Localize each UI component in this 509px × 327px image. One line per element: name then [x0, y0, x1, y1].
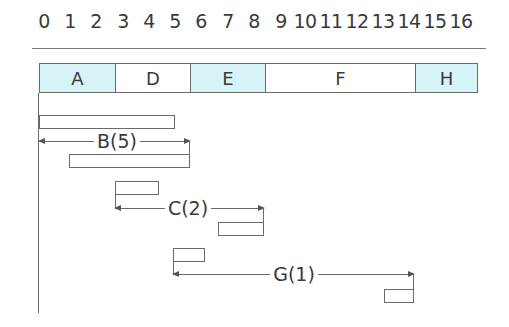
activity-H: H [415, 63, 478, 93]
axis-rule [32, 48, 486, 49]
arrowhead-left-icon [38, 138, 45, 144]
axis-tick: 7 [222, 10, 234, 32]
activity-D: D [115, 63, 190, 93]
axis-tick: 0 [38, 10, 50, 32]
late-bar [218, 222, 264, 236]
early-bar [39, 115, 175, 129]
late-bar [69, 154, 190, 168]
axis-tick: 3 [117, 10, 129, 32]
axis-tick: 1 [64, 10, 76, 32]
axis-tick: 2 [90, 10, 102, 32]
float-label: C(2) [165, 197, 211, 219]
arrow-drop [263, 208, 264, 222]
activity-label: E [222, 68, 233, 89]
arrowhead-left-icon [172, 271, 179, 277]
late-bar [384, 289, 414, 303]
float-label: G(1) [270, 263, 318, 285]
early-bar [115, 181, 159, 195]
axis-tick: 10 [293, 10, 316, 32]
axis-tick: 4 [143, 10, 155, 32]
axis-tick: 9 [275, 10, 287, 32]
axis-tick: 15 [423, 10, 446, 32]
activity-label: F [335, 68, 345, 89]
axis-tick: 6 [195, 10, 207, 32]
activity-label: H [440, 68, 454, 89]
early-bar [173, 248, 205, 262]
arrow-drop [189, 141, 190, 154]
axis-tick: 13 [371, 10, 394, 32]
axis-tick: 16 [449, 10, 472, 32]
axis-tick: 8 [248, 10, 260, 32]
activity-label: A [71, 68, 83, 89]
axis-tick: 11 [319, 10, 342, 32]
axis-tick: 12 [345, 10, 368, 32]
arrow-drop [413, 274, 414, 289]
arrowhead-left-icon [114, 205, 121, 211]
activity-label: D [146, 68, 160, 89]
float-label: B(5) [94, 130, 140, 152]
activity-F: F [265, 63, 415, 93]
activity-E: E [190, 63, 265, 93]
activity-A: A [39, 63, 115, 93]
axis-tick: 5 [169, 10, 181, 32]
axis-tick: 14 [397, 10, 420, 32]
